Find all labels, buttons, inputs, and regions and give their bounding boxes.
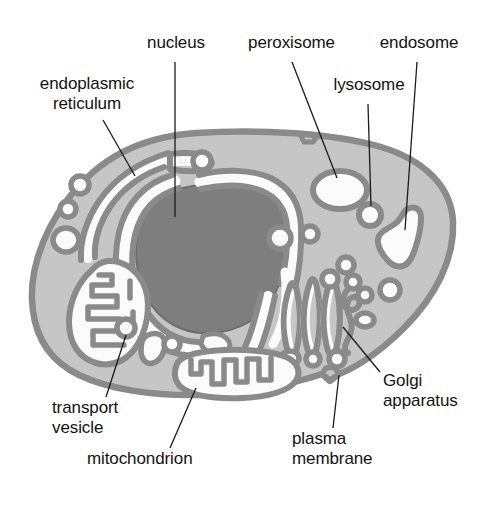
peroxisome-body <box>313 171 367 209</box>
transport-vesicle-9 <box>302 226 318 242</box>
golgi-vesicle-1 <box>322 271 338 287</box>
transport-vesicle-5 <box>117 319 135 337</box>
label-endosome: endosome <box>368 33 470 53</box>
golgi-vesicle-6 <box>306 352 320 366</box>
label-mitochondrion: mitochondrion <box>87 449 252 469</box>
transport-vesicle-6 <box>141 333 165 363</box>
label-endoplasmic-reticulum: endoplasmic reticulum <box>28 74 146 114</box>
transport-vesicle-1 <box>71 176 89 194</box>
label-lysosome: lysosome <box>322 75 416 95</box>
peroxisome-shape <box>313 171 367 209</box>
label-transport-vesicle: transport vesicle <box>52 398 162 438</box>
label-plasma-membrane: plasma membrane <box>292 429 404 469</box>
transport-vesicle-7 <box>164 336 180 352</box>
transport-vesicle-2 <box>60 201 76 217</box>
golgi-vesicle-3 <box>358 288 372 302</box>
lysosome-shape <box>359 204 381 226</box>
cell-diagram: endoplasmic reticulum nucleus peroxisome… <box>0 0 499 505</box>
lysosome-body <box>359 204 381 226</box>
label-peroxisome: peroxisome <box>233 33 350 53</box>
label-golgi-apparatus: Golgi apparatus <box>383 371 495 411</box>
mitochondrion-bottom <box>175 350 299 398</box>
golgi-vesicle-4 <box>356 313 374 327</box>
transport-vesicle-8 <box>269 227 291 249</box>
transport-vesicle-3 <box>53 228 79 252</box>
label-nucleus: nucleus <box>130 33 222 53</box>
transport-vesicle-10 <box>380 280 400 300</box>
leader-plasma-membrane <box>333 375 339 428</box>
golgi-vesicle-7 <box>329 351 345 367</box>
golgi-vesicle-2 <box>346 275 360 289</box>
transport-vesicle-11 <box>338 257 354 273</box>
transport-vesicle-4 <box>193 152 211 170</box>
